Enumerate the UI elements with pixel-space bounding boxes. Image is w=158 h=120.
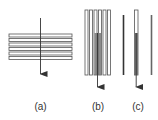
panel-a-label: (a) (34, 101, 46, 112)
panel-b-label: (b) (92, 101, 104, 112)
panel-b (85, 10, 111, 87)
panel-c-label: (c) (132, 101, 144, 112)
plate (108, 10, 111, 75)
diagram-canvas: (a) (b) (c) (0, 0, 158, 120)
panel-c (124, 10, 152, 87)
plate (85, 10, 88, 75)
plate (90, 10, 93, 75)
plate (103, 10, 106, 75)
panel-a (9, 18, 72, 74)
